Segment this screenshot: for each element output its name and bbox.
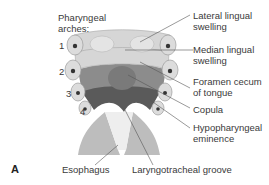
panel-label: A bbox=[11, 163, 19, 175]
label-laryngotracheal-groove: Laryngotracheal groove bbox=[132, 164, 232, 175]
label-lateral-lingual-swelling: Lateral lingual swelling bbox=[193, 10, 252, 32]
pharyngeal-arches-title: Pharyngeal arches: bbox=[58, 12, 106, 34]
arch-number-4: 4 bbox=[80, 106, 85, 117]
arch-number-3: 3 bbox=[66, 88, 71, 99]
label-hypopharyngeal-eminence: Hypopharyngeal eminence bbox=[193, 122, 262, 144]
arch-number-2: 2 bbox=[59, 66, 64, 77]
label-copula: Copula bbox=[193, 104, 223, 115]
arch-number-1: 1 bbox=[59, 40, 64, 51]
label-median-lingual-swelling: Median lingual swelling bbox=[193, 44, 254, 66]
label-esophagus: Esophagus bbox=[62, 164, 110, 175]
label-foramen-cecum: Foramen cecum of tongue bbox=[193, 76, 262, 98]
